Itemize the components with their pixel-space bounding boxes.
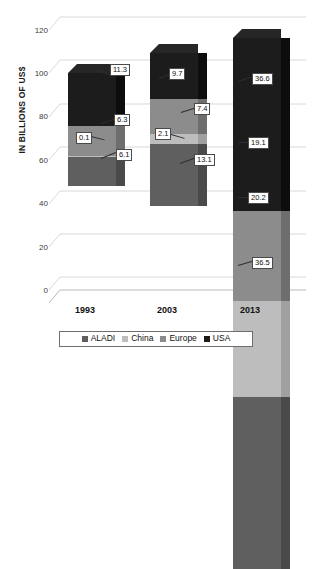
x-label-2013: 2013 bbox=[220, 305, 280, 315]
legend-item-usa[interactable]: USA bbox=[204, 334, 230, 343]
value-label-2013-china: 20.2 bbox=[248, 192, 269, 204]
bar-side-1993-aladi bbox=[116, 157, 125, 186]
bar-side-2013-china bbox=[281, 301, 290, 397]
value-label-2003-aladi: 13.1 bbox=[194, 154, 215, 166]
legend-label-aladi: ALADI bbox=[91, 334, 116, 343]
legend-label-china: China bbox=[131, 334, 153, 343]
legend-item-china[interactable]: China bbox=[122, 334, 153, 343]
value-label-2013-europe: 19.1 bbox=[248, 137, 269, 149]
bar-top-face-2013 bbox=[233, 29, 281, 38]
legend-item-aladi[interactable]: ALADI bbox=[82, 334, 116, 343]
y-tick-40: 40 bbox=[18, 200, 48, 208]
value-label-2013-usa: 36.6 bbox=[252, 73, 273, 85]
value-label-2003-china: 2.1 bbox=[155, 128, 171, 140]
y-tick-120: 120 bbox=[18, 27, 48, 35]
legend-swatch-europe bbox=[160, 336, 166, 342]
plot-area: 11.3 6.3 0.1 6.1 bbox=[49, 16, 306, 303]
value-label-1993-usa: 11.3 bbox=[110, 64, 130, 76]
x-label-1993: 1993 bbox=[55, 305, 115, 315]
value-label-2003-europe: 7.4 bbox=[194, 103, 210, 115]
bar-segment-2013-china bbox=[233, 301, 281, 397]
y-tick-80: 80 bbox=[18, 113, 48, 121]
legend-swatch-usa bbox=[204, 336, 210, 342]
value-label-2013-aladi: 36.5 bbox=[252, 257, 273, 269]
bar-segment-1993-aladi bbox=[68, 157, 116, 186]
legend-swatch-aladi bbox=[82, 336, 88, 342]
y-tick-0: 0 bbox=[18, 287, 48, 295]
bar-segment-2013-usa bbox=[233, 38, 281, 211]
y-tick-60: 60 bbox=[18, 157, 48, 165]
legend-label-usa: USA bbox=[213, 334, 230, 343]
chart-legend: ALADI China Europe USA bbox=[59, 331, 253, 347]
y-tick-100: 100 bbox=[18, 70, 48, 78]
bar-side-2013-aladi bbox=[281, 397, 290, 569]
bar-segment-1993-usa bbox=[68, 73, 116, 126]
bar-segment-2013-aladi bbox=[233, 397, 281, 569]
value-label-1993-aladi: 6.1 bbox=[116, 149, 132, 161]
value-label-1993-europe: 6.3 bbox=[114, 114, 130, 126]
bar-side-2013-europe bbox=[281, 211, 290, 301]
legend-item-europe[interactable]: Europe bbox=[160, 334, 196, 343]
bar-side-2003-china bbox=[198, 134, 207, 144]
bar-side-2003-usa bbox=[198, 53, 207, 99]
x-label-2003: 2003 bbox=[137, 305, 197, 315]
legend-swatch-china bbox=[122, 336, 128, 342]
bar-segment-2003-aladi bbox=[150, 144, 198, 206]
bar-top-face-2003 bbox=[150, 44, 198, 53]
bar-group-1993 bbox=[68, 16, 116, 303]
value-label-1993-china: 0.1 bbox=[76, 132, 92, 144]
value-label-2003-usa: 9.7 bbox=[169, 68, 185, 80]
bar-top-face-1993 bbox=[68, 64, 116, 73]
y-tick-20: 20 bbox=[18, 244, 48, 252]
legend-label-europe: Europe bbox=[169, 334, 196, 343]
bar-side-2013-usa bbox=[281, 38, 290, 211]
y-axis-tick-labels: 120 100 80 60 40 20 0 bbox=[12, 0, 48, 365]
